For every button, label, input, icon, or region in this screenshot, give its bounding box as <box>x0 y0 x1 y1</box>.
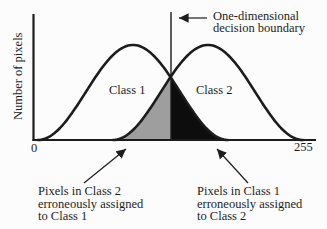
left-annotation-line3: to Class 1 <box>38 210 143 223</box>
right-annotation: Pixels in Class 1 erroneously assigned t… <box>197 185 302 223</box>
left-annotation-line1: Pixels in Class 2 <box>38 185 143 198</box>
figure-root: Number of pixels One-dimensional decisio… <box>0 0 327 229</box>
left-annotation-arrow <box>84 149 126 183</box>
right-annotation-line3: to Class 2 <box>197 210 302 223</box>
class2-label: Class 2 <box>196 84 232 97</box>
left-annotation: Pixels in Class 2 erroneously assigned t… <box>38 185 143 223</box>
x-axis-max-tick: 255 <box>294 141 313 154</box>
y-axis-label: Number of pixels <box>12 34 26 120</box>
x-axis-min-tick: 0 <box>31 142 37 155</box>
right-annotation-line1: Pixels in Class 1 <box>197 185 302 198</box>
right-annotation-arrow <box>217 149 248 183</box>
decision-boundary-label: One-dimensional decision boundary <box>213 10 305 34</box>
decision-boundary-label-line2: decision boundary <box>213 22 305 34</box>
class1-label: Class 1 <box>109 84 145 97</box>
